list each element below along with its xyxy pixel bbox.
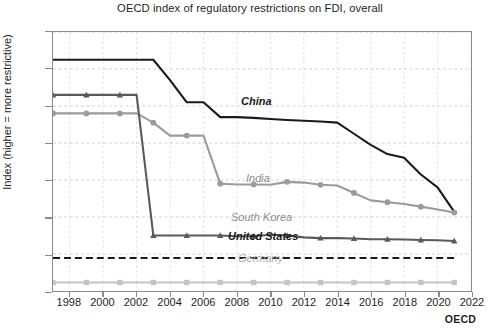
data-point-marker — [284, 280, 289, 285]
x-tick-mark — [69, 292, 70, 297]
series-label-india: India — [246, 172, 270, 184]
data-point-marker — [451, 210, 457, 216]
y-axis-title: Index (higher = more restrictive) — [1, 0, 13, 237]
x-tick-mark — [405, 292, 406, 297]
x-tick-mark — [136, 292, 137, 297]
data-point-marker — [184, 133, 190, 139]
x-tick-mark — [102, 292, 103, 297]
data-point-marker — [217, 181, 223, 187]
x-tick-mark — [472, 292, 473, 297]
y-tick-mark — [45, 106, 52, 107]
data-point-marker — [151, 280, 156, 285]
data-point-marker — [318, 280, 323, 285]
y-tick-mark — [45, 68, 52, 69]
data-point-marker — [150, 120, 156, 126]
data-point-marker — [418, 280, 423, 285]
data-point-marker — [84, 111, 90, 117]
y-tick-mark — [45, 143, 52, 144]
data-point-marker — [385, 199, 391, 205]
x-tick-mark — [438, 292, 439, 297]
chart-title: OECD index of regulatory restrictions on… — [0, 2, 500, 14]
x-tick-label: 2022 — [452, 296, 492, 308]
data-point-marker — [218, 280, 223, 285]
x-tick-mark — [203, 292, 204, 297]
data-point-marker — [284, 179, 290, 185]
y-tick-mark — [45, 180, 52, 181]
data-point-marker — [452, 280, 457, 285]
series-line-india — [53, 113, 454, 212]
series-label-germany: Germany — [238, 252, 283, 264]
data-point-marker — [418, 204, 424, 210]
source-label: OECD — [445, 313, 476, 325]
data-point-marker — [351, 280, 356, 285]
data-point-marker — [53, 111, 56, 117]
x-tick-mark — [371, 292, 372, 297]
data-point-marker — [117, 280, 122, 285]
data-point-marker — [385, 280, 390, 285]
y-tick-mark — [45, 255, 52, 256]
x-tick-mark — [170, 292, 171, 297]
y-tick-mark — [45, 217, 52, 218]
data-point-marker — [251, 280, 256, 285]
series-label-china: China — [241, 95, 272, 107]
series-label-south-korea: South Korea — [231, 211, 292, 223]
x-tick-mark — [304, 292, 305, 297]
data-point-marker — [117, 111, 123, 117]
data-point-marker — [351, 190, 357, 196]
x-tick-mark — [237, 292, 238, 297]
x-tick-mark — [338, 292, 339, 297]
data-point-marker — [184, 280, 189, 285]
chart-figure: OECD index of regulatory restrictions on… — [0, 0, 500, 334]
y-tick-mark — [45, 31, 52, 32]
data-point-marker — [318, 182, 324, 188]
series-label-united-states: United States — [228, 230, 298, 242]
y-tick-mark — [45, 292, 52, 293]
x-tick-mark — [270, 292, 271, 297]
series-line-china — [53, 60, 454, 212]
data-point-marker — [53, 280, 56, 285]
data-point-marker — [84, 280, 89, 285]
